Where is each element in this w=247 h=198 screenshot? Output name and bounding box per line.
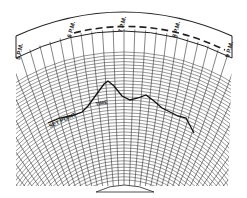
time-label-6pm: 6 P.M. [66,20,76,38]
time-label-8pm: 8 P.M. [171,20,181,38]
time-band-dash-track [74,26,225,50]
time-arrow-label: TIME [95,98,109,106]
time-label-9pm: 9 P.M. [224,40,234,58]
bottom-hub-cutout [96,185,154,192]
recording-chart-diagram: 5 P.M. 6 P.M. 7 P.M. 8 P.M. 9 P.M. SET P… [0,0,247,198]
